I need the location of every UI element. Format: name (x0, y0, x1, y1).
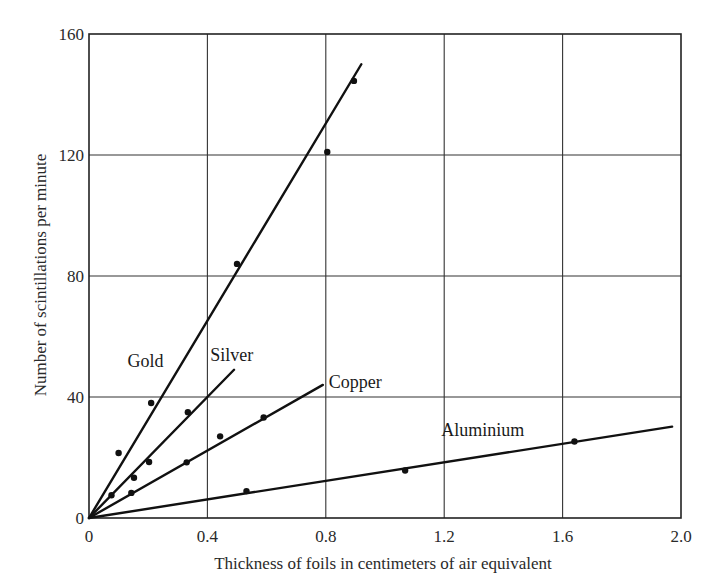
gold-fit-line (89, 64, 361, 518)
y-tick-label: 80 (67, 267, 84, 286)
copper-label: Copper (329, 372, 382, 392)
copper-data-point (260, 414, 266, 420)
gold-label: Gold (127, 351, 163, 371)
gold-data-point (234, 261, 240, 267)
aluminium-data-point (243, 488, 249, 494)
grid-lines (89, 34, 681, 518)
y-tick-label: 40 (67, 388, 84, 407)
x-tick-label: 0 (85, 527, 94, 546)
aluminium-label: Aluminium (441, 420, 524, 440)
aluminium-data-point (571, 438, 577, 444)
y-axis-ticks: 04080120160 (59, 25, 85, 528)
copper-data-point (128, 490, 134, 496)
silver-data-point (131, 475, 137, 481)
aluminium-data-point (402, 467, 408, 473)
copper-data-point (217, 433, 223, 439)
silver-label: Silver (210, 345, 253, 365)
x-axis-ticks: 00.40.81.21.62.0 (85, 527, 692, 546)
x-tick-label: 2.0 (670, 527, 691, 546)
gold-data-point (351, 78, 357, 84)
y-axis-label: Number of scintillations per minute (31, 154, 50, 397)
copper-data-point (183, 459, 189, 465)
x-tick-label: 1.2 (434, 527, 455, 546)
silver-data-point (146, 459, 152, 465)
aluminium-fit-line (89, 427, 672, 518)
silver-data-point (185, 409, 191, 415)
x-tick-label: 0.8 (315, 527, 336, 546)
fit-lines (89, 64, 672, 518)
gold-data-point (324, 149, 330, 155)
y-tick-label: 160 (59, 25, 85, 44)
gold-data-point (148, 400, 154, 406)
scintillation-chart: 00.40.81.21.62.0 04080120160 GoldSilverC… (0, 0, 712, 586)
x-tick-label: 1.6 (552, 527, 573, 546)
x-tick-label: 0.4 (197, 527, 219, 546)
y-tick-label: 120 (59, 146, 85, 165)
y-tick-label: 0 (76, 509, 85, 528)
silver-data-point (108, 492, 114, 498)
x-axis-label: Thickness of foils in centimeters of air… (214, 554, 552, 573)
gold-data-point (115, 450, 121, 456)
copper-fit-line (89, 385, 323, 518)
